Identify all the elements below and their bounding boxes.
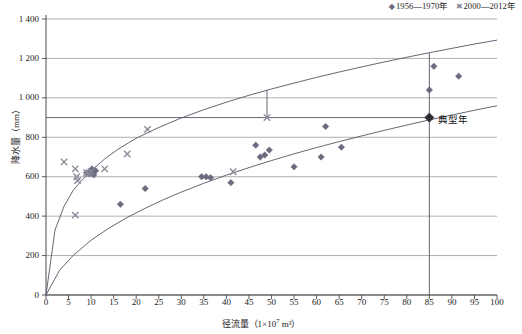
data-point-s0-17 [318,154,324,160]
data-point-s1-0 [61,159,67,165]
data-point-s0-18 [322,123,328,129]
data-point-s1-7 [72,212,78,218]
data-point-s0-19 [338,144,344,150]
data-point-s0-11 [228,179,234,185]
data-point-s1-10 [144,126,150,132]
data-point-s0-20 [426,87,432,93]
typical-year-label: 典型年 [438,112,468,126]
data-point-s0-22 [455,73,461,79]
plot-area [0,0,522,334]
data-point-s1-8 [101,166,107,172]
data-point-s0-21 [431,63,437,69]
data-point-s0-12 [253,142,259,148]
data-point-s0-7 [142,185,148,191]
data-point-s0-15 [266,147,272,153]
data-point-s0-6 [117,201,123,207]
data-point-s0-16 [291,164,297,170]
chart-figure: ◆1956—1970年✖2000—2012年 降水量（mm） 径流量（1×107… [0,0,522,334]
data-point-s1-1 [72,166,78,172]
data-point-s1-9 [124,151,130,157]
